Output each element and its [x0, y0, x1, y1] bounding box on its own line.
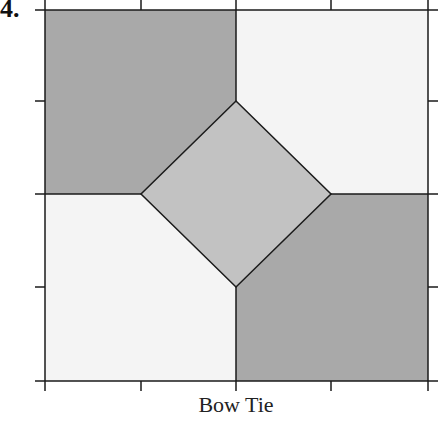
bow-tie-quilt-block [0, 0, 440, 429]
figure-caption: Bow Tie [0, 392, 440, 418]
